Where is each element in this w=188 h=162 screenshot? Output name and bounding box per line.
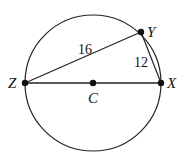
point-c [90,80,96,86]
label-c: C [88,90,99,106]
length-yx: 12 [134,55,148,70]
point-x [158,80,164,86]
circle-diagram: Z X Y C 16 12 [0,0,188,162]
chord-zy [25,32,141,83]
label-y: Y [147,24,157,40]
point-y [138,29,144,35]
length-zy: 16 [78,42,92,57]
label-x: X [166,75,177,91]
label-z: Z [8,75,17,91]
point-z [22,80,28,86]
